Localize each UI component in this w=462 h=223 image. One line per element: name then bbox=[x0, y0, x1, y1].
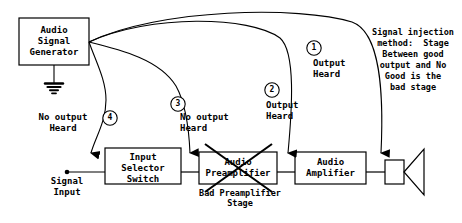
input-selector-switch-label: Input Selector Switch bbox=[105, 152, 181, 185]
audio-amplifier-label: Audio Amplifier bbox=[295, 157, 366, 179]
audio-signal-generator-label: Audio Signal Generator bbox=[19, 25, 89, 58]
marker-number-1: 1 bbox=[307, 41, 321, 55]
signal-input-label: Signal Input bbox=[34, 176, 100, 198]
marker-text-1: Output Heard bbox=[313, 58, 373, 80]
marker-text-4: No output Heard bbox=[23, 112, 103, 134]
signal-input-node bbox=[65, 170, 70, 175]
audio-preamplifier-label: Audio Preamplifier bbox=[199, 157, 277, 179]
marker-text-2: Output Heard bbox=[266, 100, 326, 122]
speaker-icon bbox=[385, 149, 424, 195]
marker-number-3: 3 bbox=[171, 97, 185, 111]
bad-preamplifier-stage-label: Bad Preamplifier Stage bbox=[186, 188, 294, 209]
signal-injection-method-note: Signal injection method: Stage Between g… bbox=[365, 27, 461, 93]
signal-injection-diagram: Audio Signal Generator Input Selector Sw… bbox=[0, 0, 462, 223]
marker-number-4: 4 bbox=[103, 111, 117, 125]
injection-curve-4 bbox=[89, 42, 106, 153]
ground-icon bbox=[45, 84, 63, 94]
marker-number-2: 2 bbox=[265, 83, 279, 97]
marker-text-3: No output Heard bbox=[180, 112, 260, 134]
